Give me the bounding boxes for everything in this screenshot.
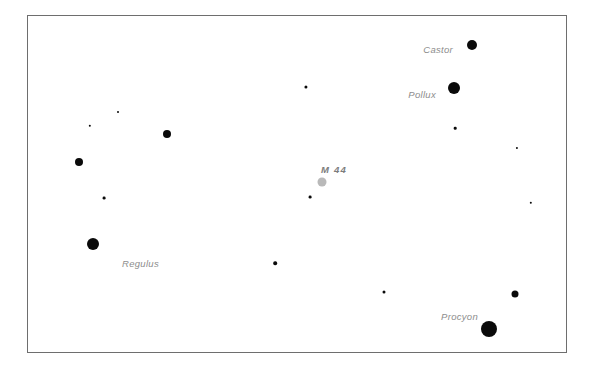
star-faint-a xyxy=(89,125,91,127)
star-faint-c xyxy=(454,127,457,130)
star-faint-f xyxy=(309,196,312,199)
star-faint-top xyxy=(304,85,307,88)
castor xyxy=(467,40,477,50)
star-label-pollux: Pollux xyxy=(408,89,436,100)
regulus xyxy=(87,238,99,250)
star-lower-right xyxy=(512,291,519,298)
star-far-left xyxy=(75,158,83,166)
star-mid-left xyxy=(163,130,171,138)
star-faint-b xyxy=(117,111,119,113)
star-label-regulus: Regulus xyxy=(122,258,159,269)
star-label-procyon: Procyon xyxy=(441,311,478,322)
m44-cluster xyxy=(318,178,327,187)
pollux xyxy=(448,82,460,94)
star-faint-g xyxy=(530,202,532,204)
star-chart: CastorPolluxRegulusProcyonM 44 xyxy=(0,0,592,372)
star-faint-h xyxy=(273,261,277,265)
star-faint-e xyxy=(103,197,106,200)
star-label-m44-cluster: M 44 xyxy=(321,164,347,175)
sky-frame: CastorPolluxRegulusProcyonM 44 xyxy=(27,15,567,353)
star-faint-i xyxy=(383,291,386,294)
procyon xyxy=(481,321,497,337)
star-label-castor: Castor xyxy=(423,44,453,55)
star-faint-d xyxy=(516,147,518,149)
